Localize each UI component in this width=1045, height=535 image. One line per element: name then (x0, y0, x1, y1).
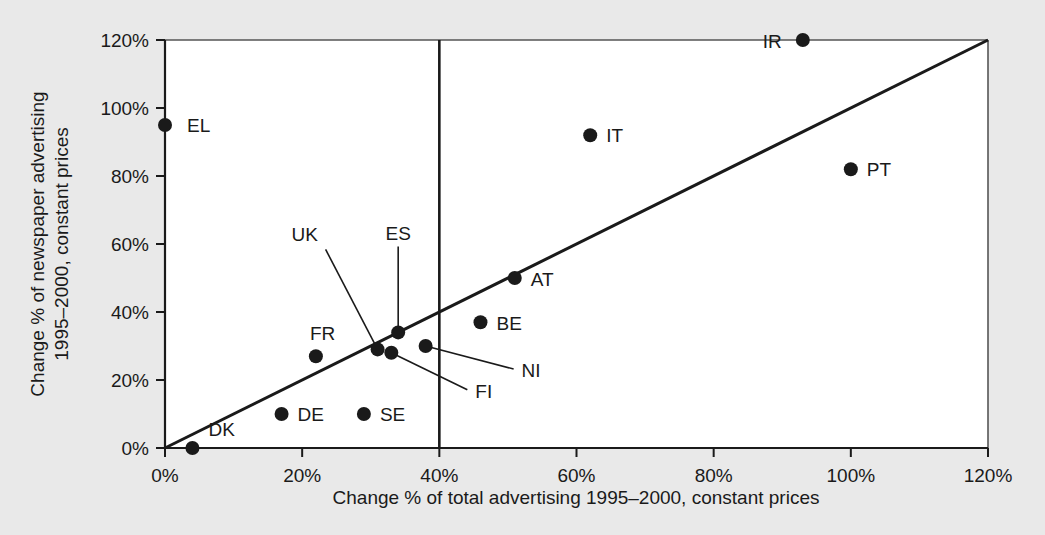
data-point-se (357, 407, 371, 421)
data-point-at (508, 271, 522, 285)
point-label-it: IT (606, 125, 623, 146)
data-point-el (158, 118, 172, 132)
point-label-be: BE (496, 313, 521, 334)
y-tick-label: 0% (122, 438, 150, 459)
y-tick-label: 40% (111, 302, 149, 323)
data-point-es (391, 325, 405, 339)
data-point-pt (844, 162, 858, 176)
point-label-fi: FI (475, 381, 492, 402)
x-tick-label: 0% (151, 465, 179, 486)
y-tick-label: 20% (111, 370, 149, 391)
y-tick-label: 120% (100, 30, 149, 51)
data-point-be (473, 315, 487, 329)
data-point-ni (419, 339, 433, 353)
data-point-it (583, 128, 597, 142)
point-label-es: ES (386, 223, 411, 244)
y-tick-label: 100% (100, 98, 149, 119)
point-label-dk: DK (208, 419, 235, 440)
data-point-de (275, 407, 289, 421)
data-point-ir (796, 33, 810, 47)
y-tick-label: 80% (111, 166, 149, 187)
point-label-de: DE (298, 404, 324, 425)
y-tick-label: 60% (111, 234, 149, 255)
data-point-uk (371, 342, 385, 356)
y-axis-title-line1: Change % of newspaper advertising (27, 91, 48, 396)
x-tick-label: 40% (420, 465, 458, 486)
x-tick-label: 100% (827, 465, 876, 486)
point-label-uk: UK (292, 224, 319, 245)
point-label-el: EL (187, 115, 210, 136)
point-label-ir: IR (763, 31, 782, 52)
data-point-fr (309, 349, 323, 363)
x-axis-title: Change % of total advertising 1995–2000,… (333, 487, 820, 508)
data-point-dk (185, 441, 199, 455)
chart-figure: ELIRITPTATBEFRDESEDKESUKFINI 0%20%40%60%… (0, 0, 1045, 535)
scatter-plot: ELIRITPTATBEFRDESEDKESUKFINI 0%20%40%60%… (0, 0, 1045, 535)
point-label-pt: PT (867, 159, 892, 180)
data-point-fi (384, 346, 398, 360)
point-label-fr: FR (310, 323, 335, 344)
point-label-se: SE (380, 404, 405, 425)
x-tick-label: 120% (964, 465, 1013, 486)
y-axis-title-line2: 1995–2000, constant prices (51, 127, 72, 360)
x-tick-label: 60% (557, 465, 595, 486)
x-tick-label: 80% (695, 465, 733, 486)
point-label-ni: NI (522, 360, 541, 381)
point-label-at: AT (531, 269, 554, 290)
x-tick-label: 20% (283, 465, 321, 486)
